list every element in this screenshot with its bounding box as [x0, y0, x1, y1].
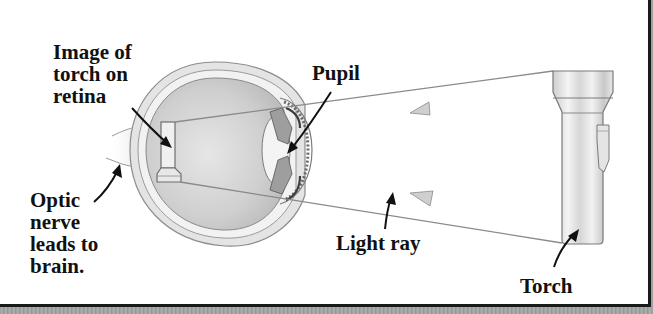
label-pupil: Pupil — [312, 62, 360, 84]
diagram-canvas: Image of torch on retina Pupil Optic ner… — [0, 0, 653, 314]
label-light-ray: Light ray — [336, 232, 421, 254]
arrowhead-icon-bottom — [410, 191, 433, 206]
arrowhead-icon-top — [410, 102, 430, 115]
arrowhead-icon-light — [386, 192, 396, 205]
eyeball — [130, 62, 312, 246]
bottom-shadow-strip — [0, 307, 653, 314]
label-image-of-torch-on-retina: Image of torch on retina — [53, 41, 132, 107]
label-torch: Torch — [520, 275, 573, 297]
ray-arrowheads — [410, 102, 433, 206]
arrowhead-icon-optic — [112, 164, 122, 178]
torch-illustration — [553, 71, 613, 244]
label-optic-nerve: Optic nerve leads to brain. — [30, 189, 98, 277]
